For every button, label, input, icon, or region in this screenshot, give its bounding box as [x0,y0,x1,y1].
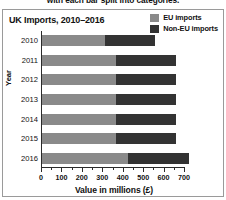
x-axis-tick-mark [143,168,144,172]
y-axis-tick-label: 2016 [21,154,38,163]
x-axis-tick-mark [41,168,42,172]
plot-area [41,31,185,168]
x-axis-minor-tick-mark [113,168,114,170]
bar-segment-eu [42,94,116,105]
bar-segment-eu [42,35,105,46]
x-axis-title: Value in millions (£) [3,185,225,195]
bar-segment-eu [42,114,116,125]
chart-screenshot: with each bar split into categories. UK … [0,0,226,200]
legend-label-eu-imports: EU imports [163,13,201,22]
bar-segment-non-eu [116,74,176,85]
y-axis-tick-label: 2015 [21,134,38,143]
x-axis-tick-mark [82,168,83,172]
y-axis-tick-labels: 2010201120122013201420152016 [3,31,41,168]
y-axis-tick-label: 2012 [21,75,38,84]
legend-swatch-eu-imports [150,14,159,22]
x-axis-minor-tick-mark [51,168,52,170]
bar-segment-eu [42,55,116,66]
bar-segment-non-eu [116,94,176,105]
x-axis-tick-label: 400 [117,173,129,182]
x-axis-minor-tick-mark [133,168,134,170]
x-axis-tick-mark [123,168,124,172]
y-axis-tick-label: 2014 [21,115,38,124]
bar-row [42,55,176,66]
bar-segment-non-eu [128,153,189,164]
bar-segment-eu [42,74,116,85]
x-axis-tick-labels: 0100200300400500600700 [41,173,186,183]
bar-segment-non-eu [105,35,155,46]
bar-segment-non-eu [116,133,176,144]
x-axis-tick-label: 500 [137,173,149,182]
chart-legend: EU imports Non-EU imports [150,13,218,33]
x-axis-tick-mark [102,168,103,172]
x-axis-tick-mark [164,168,165,172]
bar-segment-eu [42,153,128,164]
bar-segment-eu [42,133,116,144]
x-axis-tick-mark [184,168,185,172]
x-axis-minor-tick-mark [92,168,93,170]
chart-title: UK Imports, 2010–2016 [9,15,104,25]
x-axis-minor-tick-mark [174,168,175,170]
bar-row [42,153,189,164]
x-axis-tick-label: 100 [55,173,67,182]
caption-text: with each bar split into categories. [0,0,226,5]
caption-strip: with each bar split into categories. [0,0,226,9]
y-axis-tick-label: 2010 [21,36,38,45]
legend-item-eu-imports: EU imports [150,13,218,22]
bar-row [42,35,155,46]
x-axis-minor-tick-mark [153,168,154,170]
bar-segment-non-eu [116,114,176,125]
y-axis-tick-label: 2011 [22,56,38,65]
x-axis-tick-mark [61,168,62,172]
bar-row [42,74,176,85]
chart-card: UK Imports, 2010–2016 EU imports Non-EU … [2,9,224,197]
bar-row [42,133,176,144]
x-axis-minor-tick-mark [72,168,73,170]
x-axis-tick-label: 300 [96,173,108,182]
bar-row [42,114,176,125]
x-axis-tick-label: 600 [158,173,170,182]
x-axis-tick-label: 0 [39,173,43,182]
bar-segment-non-eu [116,55,176,66]
x-axis-tick-label: 700 [178,173,190,182]
x-axis-tick-label: 200 [76,173,88,182]
y-axis-tick-label: 2013 [21,95,38,104]
bar-group [42,31,185,168]
bar-row [42,94,176,105]
